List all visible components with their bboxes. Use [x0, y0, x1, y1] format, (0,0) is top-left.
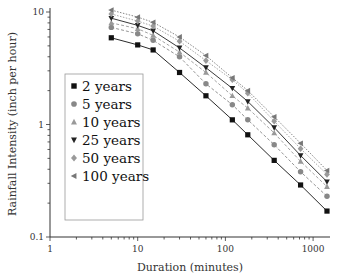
legend-label: 2 years	[82, 78, 132, 94]
legend-label: 10 years	[82, 114, 141, 130]
y-tick-label: 1	[38, 120, 44, 130]
data-point-2-years	[203, 93, 208, 98]
data-point-5-years	[177, 54, 182, 59]
x-tick-label: 1	[47, 244, 53, 254]
y-tick-label: 0.1	[30, 232, 44, 242]
legend: 2 years5 years10 years25 years50 years10…	[65, 74, 149, 220]
rainfall-idf-chart: 11010010000.1110 2 years5 years10 years2…	[0, 0, 342, 279]
series-line-25-years	[111, 18, 327, 182]
legend-label: 25 years	[82, 132, 141, 148]
data-point-2-years	[177, 70, 182, 75]
data-point-5-years	[271, 142, 276, 147]
data-point-5-years	[203, 81, 208, 86]
data-point-25-years	[203, 65, 209, 70]
y-tick-label: 10	[33, 7, 45, 17]
data-point-2-years	[109, 35, 114, 40]
data-point-5-years	[135, 31, 140, 36]
data-point-50-years	[298, 145, 304, 152]
data-point-5-years	[324, 194, 329, 199]
data-point-2-years	[272, 158, 277, 163]
series-line-10-years	[111, 23, 327, 187]
x-tick-label: 100	[217, 244, 234, 254]
x-tick-label: 10	[132, 244, 144, 254]
data-point-25-years	[324, 179, 330, 184]
series-line-50-years	[111, 14, 327, 174]
x-tick-label: 1000	[302, 244, 325, 254]
data-point-5-years	[298, 169, 303, 174]
legend-label: 5 years	[82, 96, 132, 112]
data-point-10-years	[245, 105, 251, 110]
legend-marker-5-years	[71, 101, 77, 107]
data-point-2-years	[135, 42, 140, 47]
data-point-2-years	[324, 208, 329, 213]
x-axis-title: Duration (minutes)	[137, 261, 243, 274]
legend-label: 50 years	[82, 150, 141, 166]
data-point-5-years	[150, 38, 155, 43]
data-point-2-years	[230, 117, 235, 122]
data-point-5-years	[230, 102, 235, 107]
legend-label: 100 years	[82, 168, 149, 184]
series-line-2-years	[111, 38, 327, 211]
data-point-2-years	[245, 132, 250, 137]
data-point-25-years	[177, 46, 183, 51]
legend-marker-2-years	[71, 83, 76, 88]
data-point-5-years	[245, 117, 250, 122]
y-axis-title: Rainfall Intensity (inch per hour)	[6, 32, 19, 216]
data-point-2-years	[298, 182, 303, 187]
data-point-2-years	[151, 47, 156, 52]
data-point-5-years	[109, 25, 114, 30]
series-line-100-years	[111, 10, 327, 170]
